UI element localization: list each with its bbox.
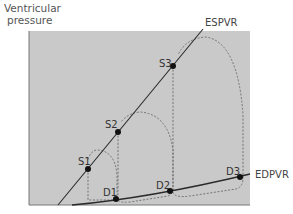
plot-panel <box>29 31 250 205</box>
label-s1: S1 <box>78 156 91 167</box>
label-d1: D1 <box>103 187 117 198</box>
label-edpvr: EDPVR <box>255 169 289 180</box>
label-d3: D3 <box>226 166 240 177</box>
label-espvr: ESPVR <box>205 17 238 28</box>
label-d2: D2 <box>156 180 170 191</box>
pressure-volume-diagram: S1 S2 S3 D1 D2 D3 ESPVR EDPVR <box>0 0 293 214</box>
label-s2: S2 <box>105 119 118 130</box>
label-s3: S3 <box>159 58 172 69</box>
